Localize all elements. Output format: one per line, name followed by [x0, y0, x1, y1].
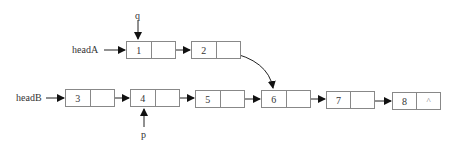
- node-next: [217, 42, 241, 58]
- node-data: 1: [127, 42, 152, 58]
- node-4: 4: [130, 89, 180, 107]
- node-5: 5: [195, 90, 245, 108]
- node-2: 2: [191, 41, 241, 59]
- node-data: 4: [131, 90, 156, 106]
- arrows-layer: [0, 0, 457, 147]
- node-next: [221, 91, 245, 107]
- headB-label: headB: [16, 93, 42, 103]
- headA-label: headA: [72, 45, 98, 55]
- node-next: [351, 92, 374, 108]
- p-label: p: [141, 130, 146, 140]
- node-next: [91, 90, 115, 106]
- node-next: [156, 90, 180, 106]
- node-data: 5: [196, 91, 221, 107]
- node-1: 1: [126, 41, 176, 59]
- node-data: 3: [66, 90, 91, 106]
- node-8: 8 ^: [392, 92, 441, 110]
- node-next: [152, 42, 176, 58]
- node-7: 7: [326, 91, 375, 109]
- node-6: 6: [261, 90, 311, 108]
- node-data: 6: [262, 91, 287, 107]
- q-label: q: [135, 11, 140, 21]
- null-pointer: ^: [417, 93, 440, 109]
- node-data: 2: [192, 42, 217, 58]
- node-next: [287, 91, 311, 107]
- node-data: 8: [393, 93, 417, 109]
- node-3: 3: [65, 89, 115, 107]
- node-data: 7: [327, 92, 351, 108]
